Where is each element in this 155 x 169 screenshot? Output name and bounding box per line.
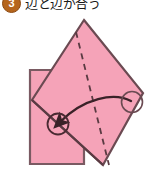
instruction-text: 辺と辺が合う [25,0,155,12]
instruction-header: 3 辺と辺が合う [0,0,155,13]
origami-fold-diagram [10,14,155,169]
origami-instruction-panel: 3 辺と辺が合う [0,0,155,169]
step-number-badge: 3 [2,0,21,13]
